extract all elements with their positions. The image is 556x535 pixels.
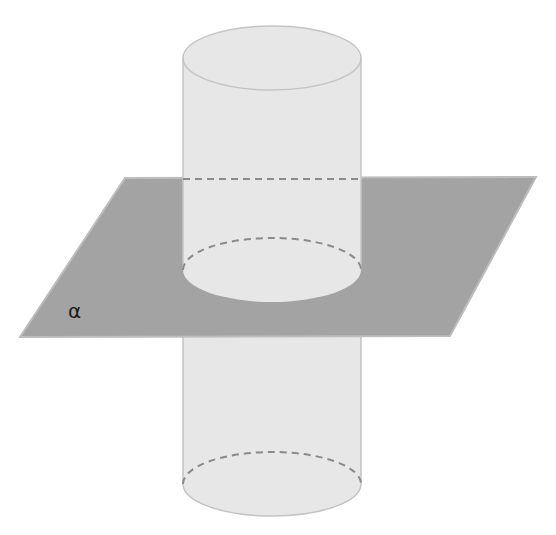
cylinder-lower — [183, 330, 361, 516]
cylinder-plane-diagram: α — [0, 0, 556, 535]
top-base — [183, 26, 361, 90]
cylinder-through-plane — [183, 179, 361, 302]
plane-label: α — [68, 299, 81, 323]
cylinder-lower-body — [183, 330, 361, 516]
cylinder-upper — [183, 26, 361, 179]
cylinder-body-on-plane — [183, 179, 361, 302]
